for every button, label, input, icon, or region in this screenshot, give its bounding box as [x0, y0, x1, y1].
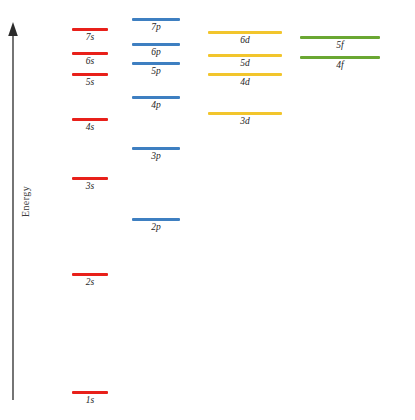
orbital-level-label-2p: 2p [132, 222, 180, 232]
orbital-level-label-5d: 5d [208, 58, 282, 68]
orbital-level-label-5p: 5p [132, 66, 180, 76]
orbital-level-line-4f [300, 56, 380, 59]
orbital-level-line-4d [208, 73, 282, 76]
orbital-level-line-4p [132, 96, 180, 99]
orbital-level-label-4s: 4s [72, 122, 108, 132]
orbital-level-label-7s: 7s [72, 32, 108, 42]
orbital-level-line-6p [132, 43, 180, 46]
orbital-level-line-6d [208, 31, 282, 34]
orbital-level-label-4f: 4f [300, 60, 380, 70]
orbital-level-label-6p: 6p [132, 47, 180, 57]
orbital-level-line-5d [208, 54, 282, 57]
orbital-level-label-7p: 7p [132, 22, 180, 32]
orbital-level-label-3d: 3d [208, 116, 282, 126]
orbital-level-line-7p [132, 18, 180, 21]
orbital-energy-diagram: Energy 7s6s5s4s3s2s1s7p6p5p4p3p2p6d5d4d3… [0, 0, 415, 420]
orbital-level-line-7s [72, 28, 108, 31]
orbital-level-label-3p: 3p [132, 151, 180, 161]
orbital-level-line-4s [72, 118, 108, 121]
orbital-level-line-1s [72, 391, 108, 394]
orbital-level-label-6s: 6s [72, 56, 108, 66]
orbital-level-line-3s [72, 177, 108, 180]
orbital-level-line-6s [72, 52, 108, 55]
orbital-level-line-5s [72, 73, 108, 76]
orbital-level-line-2p [132, 218, 180, 221]
orbital-level-label-4d: 4d [208, 77, 282, 87]
orbital-level-line-5p [132, 62, 180, 65]
orbital-level-label-4p: 4p [132, 100, 180, 110]
orbital-level-label-2s: 2s [72, 277, 108, 287]
orbital-level-label-5f: 5f [300, 40, 380, 50]
energy-axis-label: Energy [20, 172, 31, 232]
orbital-level-label-1s: 1s [72, 395, 108, 405]
orbital-level-line-3p [132, 147, 180, 150]
orbital-level-line-3d [208, 112, 282, 115]
orbital-level-line-2s [72, 273, 108, 276]
orbital-level-label-3s: 3s [72, 181, 108, 191]
orbital-level-line-5f [300, 36, 380, 39]
orbital-level-label-5s: 5s [72, 77, 108, 87]
orbital-level-label-6d: 6d [208, 35, 282, 45]
